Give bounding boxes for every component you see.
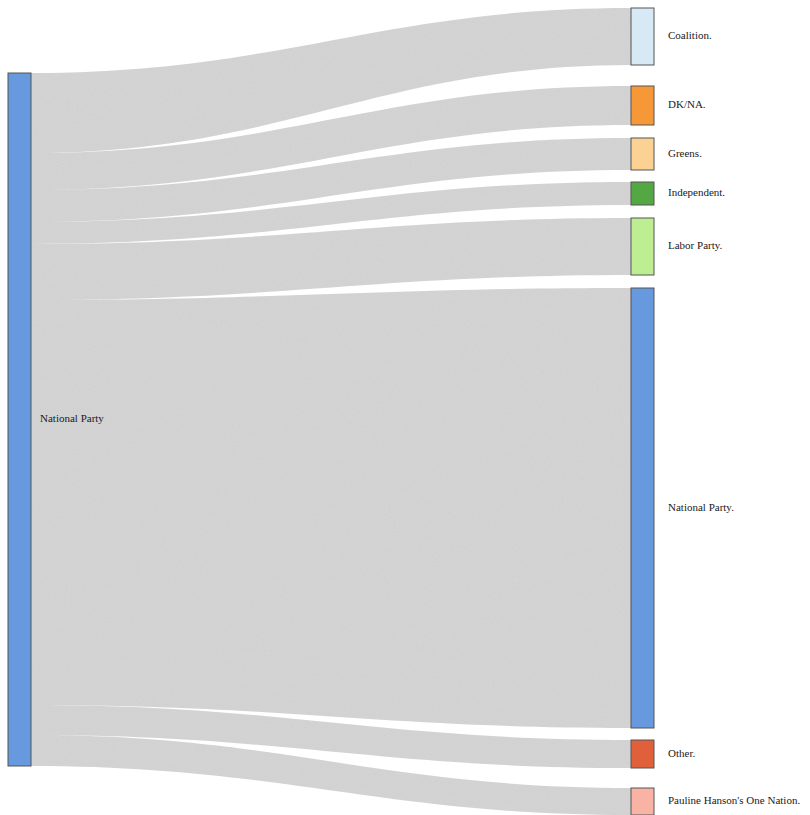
sankey-node-tgt-dkna[interactable]: [631, 86, 654, 125]
sankey-node-label-tgt-dkna: DK/NA.: [668, 98, 706, 110]
sankey-node-tgt-independent[interactable]: [631, 182, 654, 205]
sankey-node-tgt-coalition[interactable]: [631, 8, 654, 65]
sankey-node-tgt-labor-party[interactable]: [631, 218, 654, 275]
sankey-node-label-tgt-labor-party: Labor Party.: [668, 239, 723, 251]
sankey-node-label-tgt-greens: Greens.: [668, 147, 702, 159]
sankey-link: [31, 288, 631, 728]
sankey-node-label-tgt-other: Other.: [668, 747, 695, 759]
sankey-node-label-tgt-one-nation: Pauline Hanson's One Nation.: [668, 794, 800, 806]
sankey-diagram: National PartyCoalition.DK/NA.Greens.Ind…: [0, 0, 810, 815]
sankey-node-tgt-one-nation[interactable]: [631, 788, 654, 815]
sankey-node-src-national-party[interactable]: [8, 73, 31, 766]
sankey-node-label-src-national-party: National Party: [40, 412, 104, 424]
sankey-node-tgt-national-party[interactable]: [631, 288, 654, 728]
sankey-node-tgt-other[interactable]: [631, 740, 654, 768]
sankey-node-tgt-greens[interactable]: [631, 138, 654, 170]
sankey-node-label-tgt-national-party: National Party.: [668, 501, 734, 513]
sankey-node-label-tgt-independent: Independent.: [668, 186, 725, 198]
sankey-node-label-tgt-coalition: Coalition.: [668, 29, 712, 41]
sankey-canvas: National PartyCoalition.DK/NA.Greens.Ind…: [0, 0, 810, 815]
